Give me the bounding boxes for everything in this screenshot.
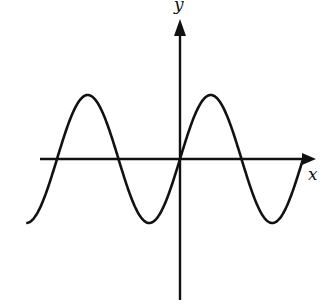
x-axis-label: x [308, 166, 318, 183]
sine-graph [0, 0, 323, 306]
y-axis-label: y [174, 0, 184, 13]
y-axis-arrow-icon [174, 19, 186, 36]
